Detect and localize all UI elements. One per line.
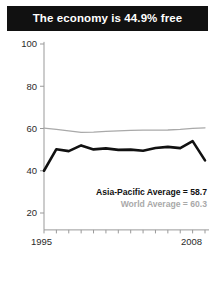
world-average-line — [44, 128, 205, 132]
asia-pacific-average-label: Asia-Pacific Average = 58.7 — [96, 188, 207, 198]
y-axis-tick-label: 80 — [26, 81, 37, 92]
y-axis-tick-label: 20 — [26, 207, 37, 218]
title-banner: The economy is 44.9% free — [7, 6, 208, 31]
x-axis-start-label: 1995 — [31, 236, 52, 247]
y-axis-tick-label: 60 — [26, 123, 37, 134]
country-score-line — [44, 141, 205, 171]
world-average-label: World Average = 60.3 — [121, 200, 207, 210]
chart-figure: The economy is 44.9% free 20406080100 19… — [0, 0, 215, 281]
chart-title: The economy is 44.9% free — [33, 13, 183, 25]
plot-area: 20406080100 1995 2008 Asia-Pacific Avera… — [0, 33, 215, 281]
x-axis-end-label: 2008 — [181, 236, 202, 247]
y-axis-tick-label: 100 — [21, 38, 37, 49]
y-axis-tick-label: 40 — [26, 165, 37, 176]
